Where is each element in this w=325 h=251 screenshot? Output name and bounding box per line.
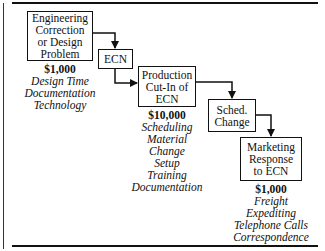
box-line: ECN (156, 93, 179, 105)
marketing-cost: $1,000 Freight Expediting Telephone Call… (222, 183, 320, 243)
cost-amount: $1,000 (222, 183, 320, 195)
cost-item: Expediting (222, 207, 320, 219)
cost-amount: $1,000 (14, 63, 106, 75)
box-line: to ECN (254, 165, 289, 177)
cost-item: Technology (14, 99, 106, 111)
cost-item: Telephone Calls (222, 219, 320, 231)
box-line: or Design (37, 36, 82, 48)
box-line: Problem (41, 48, 80, 60)
cost-item: Design Time (14, 75, 106, 87)
production-box: Production Cut-In of ECN (138, 66, 196, 107)
cost-item: Training (121, 169, 213, 181)
engineering-cost: $1,000 Design Time Documentation Technol… (14, 63, 106, 111)
cost-item: Documentation (14, 87, 106, 99)
engineering-box: Engineering Correction or Design Problem (27, 11, 93, 61)
cost-item: Material (121, 133, 213, 145)
box-line: Correction (35, 24, 84, 36)
cost-item: Setup (121, 157, 213, 169)
cost-amount: $10,000 (121, 109, 213, 121)
cost-item: Freight (222, 195, 320, 207)
box-line: Marketing (247, 141, 295, 153)
box-line: Engineering (32, 12, 88, 24)
box-line: Production (142, 69, 192, 81)
box-line: ECN (104, 53, 127, 65)
marketing-box: Marketing Response to ECN (240, 137, 302, 181)
sched-change-box: Sched. Change (208, 99, 256, 132)
box-line: Change (214, 116, 249, 128)
cost-item: Change (121, 145, 213, 157)
production-cost: $10,000 Scheduling Material Change Setup… (121, 109, 213, 193)
cost-item: Documentation (121, 181, 213, 193)
box-line: Cut-In of (146, 81, 188, 93)
cost-item: Correspondence (222, 231, 320, 243)
cost-item: Scheduling (121, 121, 213, 133)
box-line: Sched. (217, 104, 248, 116)
box-line: Response (249, 153, 293, 165)
